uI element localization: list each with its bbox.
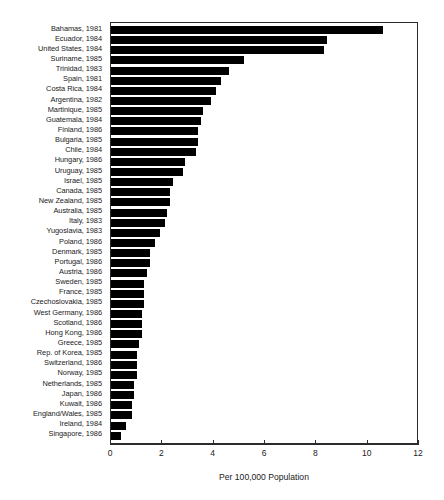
x-tick-mark bbox=[161, 440, 162, 445]
bar bbox=[111, 300, 144, 308]
x-axis: 024681012 bbox=[110, 444, 418, 445]
bar bbox=[111, 340, 139, 348]
category-label: Uruguay, 1985 bbox=[0, 167, 102, 175]
x-tick-label: 10 bbox=[362, 448, 371, 458]
category-label: Rep. of Korea, 1985 bbox=[0, 349, 102, 357]
x-axis-title: Per 100,000 Population bbox=[110, 472, 418, 483]
x-tick-label: 8 bbox=[313, 448, 318, 458]
bar bbox=[111, 138, 198, 146]
bar bbox=[111, 178, 173, 186]
bar bbox=[111, 320, 142, 328]
bar bbox=[111, 391, 134, 399]
bar bbox=[111, 310, 142, 318]
x-tick-mark bbox=[418, 440, 419, 445]
category-label: Sweden, 1985 bbox=[0, 278, 102, 286]
bar bbox=[111, 26, 383, 34]
category-label: United States, 1984 bbox=[0, 45, 102, 53]
category-label: Hong Kong, 1986 bbox=[0, 329, 102, 337]
category-label: Spain, 1981 bbox=[0, 75, 102, 83]
x-tick-label: 0 bbox=[108, 448, 113, 458]
bar bbox=[111, 117, 201, 125]
category-label: Greece, 1985 bbox=[0, 339, 102, 347]
category-label: Switzerland, 1986 bbox=[0, 359, 102, 367]
bar bbox=[111, 249, 150, 257]
category-label: Ecuador, 1984 bbox=[0, 35, 102, 43]
bar bbox=[111, 290, 144, 298]
category-label: Costa Rica, 1984 bbox=[0, 85, 102, 93]
category-label: Israel, 1985 bbox=[0, 177, 102, 185]
category-label: New Zealand, 1985 bbox=[0, 197, 102, 205]
category-label: Singapore, 1986 bbox=[0, 430, 102, 438]
category-label: France, 1985 bbox=[0, 288, 102, 296]
bar bbox=[111, 422, 126, 430]
bar bbox=[111, 259, 150, 267]
category-label: Czechoslovakia, 1985 bbox=[0, 298, 102, 306]
x-tick-label: 2 bbox=[159, 448, 164, 458]
category-label: Suriname, 1985 bbox=[0, 55, 102, 63]
category-label: Scotland, 1986 bbox=[0, 319, 102, 327]
bar bbox=[111, 401, 132, 409]
category-label-column: Bahamas, 1981Ecuador, 1984United States,… bbox=[0, 22, 106, 444]
category-label: Finland, 1986 bbox=[0, 126, 102, 134]
x-tick-mark bbox=[110, 440, 111, 445]
category-label: Hungary, 1986 bbox=[0, 156, 102, 164]
bar bbox=[111, 198, 170, 206]
x-tick-mark bbox=[315, 440, 316, 445]
bar-chart: Bahamas, 1981Ecuador, 1984United States,… bbox=[0, 0, 444, 500]
bars-layer bbox=[111, 23, 417, 443]
bar bbox=[111, 168, 183, 176]
bar bbox=[111, 97, 211, 105]
bar bbox=[111, 361, 137, 369]
category-label: Chile, 1984 bbox=[0, 146, 102, 154]
bar bbox=[111, 351, 137, 359]
category-label: Italy, 1983 bbox=[0, 217, 102, 225]
x-tick-label: 4 bbox=[210, 448, 215, 458]
bar bbox=[111, 330, 142, 338]
bar bbox=[111, 381, 134, 389]
bar bbox=[111, 371, 137, 379]
bar bbox=[111, 432, 121, 440]
category-label: Denmark, 1985 bbox=[0, 248, 102, 256]
category-label: Austria, 1986 bbox=[0, 268, 102, 276]
bar bbox=[111, 107, 203, 115]
bar bbox=[111, 56, 244, 64]
bar bbox=[111, 219, 165, 227]
category-label: Japan, 1986 bbox=[0, 390, 102, 398]
category-label: Trinidad, 1983 bbox=[0, 65, 102, 73]
bar bbox=[111, 77, 221, 85]
bar bbox=[111, 209, 167, 217]
category-label: Norway, 1985 bbox=[0, 369, 102, 377]
bar bbox=[111, 411, 132, 419]
bar bbox=[111, 127, 198, 135]
category-label: Kuwait, 1986 bbox=[0, 400, 102, 408]
x-tick-mark bbox=[213, 440, 214, 445]
category-label: England/Wales, 1985 bbox=[0, 410, 102, 418]
category-label: Canada, 1985 bbox=[0, 187, 102, 195]
x-tick-mark bbox=[367, 440, 368, 445]
bar bbox=[111, 148, 196, 156]
bar bbox=[111, 269, 147, 277]
category-label: Guatemala, 1984 bbox=[0, 116, 102, 124]
plot-area bbox=[110, 22, 418, 444]
x-tick-label: 6 bbox=[262, 448, 267, 458]
category-label: Yugoslavia, 1983 bbox=[0, 227, 102, 235]
bar bbox=[111, 188, 170, 196]
category-label: Portugal, 1986 bbox=[0, 258, 102, 266]
bar bbox=[111, 36, 327, 44]
bar bbox=[111, 67, 229, 75]
category-label: Bahamas, 1981 bbox=[0, 25, 102, 33]
bar bbox=[111, 280, 144, 288]
bar bbox=[111, 87, 216, 95]
category-label: West Germany, 1986 bbox=[0, 309, 102, 317]
category-label: Martinique, 1985 bbox=[0, 106, 102, 114]
bar bbox=[111, 158, 185, 166]
bar bbox=[111, 239, 155, 247]
bar bbox=[111, 46, 324, 54]
category-label: Argentina, 1982 bbox=[0, 96, 102, 104]
category-label: Netherlands, 1985 bbox=[0, 380, 102, 388]
category-label: Australia, 1985 bbox=[0, 207, 102, 215]
category-label: Bulgaria, 1985 bbox=[0, 136, 102, 144]
x-tick-mark bbox=[264, 440, 265, 445]
category-label: Ireland, 1984 bbox=[0, 420, 102, 428]
x-tick-label: 12 bbox=[413, 448, 422, 458]
